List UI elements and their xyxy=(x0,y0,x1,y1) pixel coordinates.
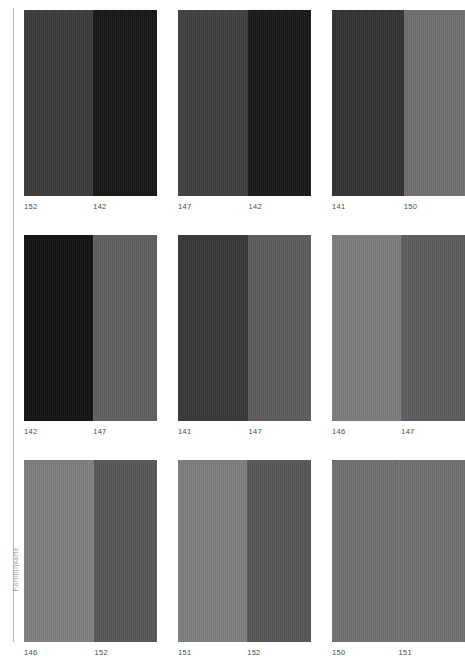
swatch-label-right: 150 xyxy=(404,200,465,218)
swatch-body xyxy=(332,460,465,642)
swatch-label-right: 152 xyxy=(247,646,311,659)
swatch-half-right xyxy=(248,235,311,421)
swatch-label-left: 150 xyxy=(332,646,399,659)
swatch-half-left xyxy=(332,460,399,642)
swatch-label-left: 141 xyxy=(332,200,404,218)
swatch-plate: 152 142 147 142 141 150 xyxy=(24,10,460,659)
swatch-label-right: 147 xyxy=(401,425,465,443)
swatch-label-left: 146 xyxy=(24,646,94,659)
swatch-labels: 152 142 xyxy=(24,196,157,218)
swatch-row: 152 142 147 142 141 150 xyxy=(24,10,460,218)
swatch-body xyxy=(332,235,465,421)
swatch-card[interactable]: 141 150 xyxy=(332,10,465,218)
swatch-label-left: 142 xyxy=(24,425,93,443)
swatch-card[interactable]: 141 147 xyxy=(178,235,311,443)
swatch-card[interactable]: 150 151 xyxy=(332,460,465,659)
swatch-label-right: 152 xyxy=(94,646,157,659)
swatch-label-left: 146 xyxy=(332,425,401,443)
swatch-body xyxy=(24,460,157,642)
swatch-half-left xyxy=(24,235,93,421)
swatch-half-left xyxy=(178,460,247,642)
swatch-card[interactable]: 152 142 xyxy=(24,10,157,218)
swatch-labels: 146 147 xyxy=(332,421,465,443)
margin-note-text: Farbtonkarte xyxy=(12,506,19,592)
swatch-half-right xyxy=(404,10,465,196)
swatch-labels: 151 152 xyxy=(178,642,311,659)
swatch-label-left: 152 xyxy=(24,200,93,218)
swatch-half-right xyxy=(248,10,311,196)
swatch-body xyxy=(24,10,157,196)
swatch-label-right: 151 xyxy=(399,646,465,659)
swatch-label-right: 147 xyxy=(93,425,157,443)
swatch-half-right xyxy=(94,460,157,642)
swatch-card[interactable]: 146 152 xyxy=(24,460,157,659)
swatch-half-right xyxy=(401,235,465,421)
swatch-labels: 146 152 xyxy=(24,642,157,659)
swatch-body xyxy=(24,235,157,421)
swatch-labels: 147 142 xyxy=(178,196,311,218)
swatch-label-left: 147 xyxy=(178,200,248,218)
swatch-half-left xyxy=(178,10,248,196)
swatch-labels: 150 151 xyxy=(332,642,465,659)
swatch-body xyxy=(178,10,311,196)
swatch-labels: 141 147 xyxy=(178,421,311,443)
swatch-half-right xyxy=(93,10,157,196)
swatch-card[interactable]: 151 152 xyxy=(178,460,311,659)
swatch-half-left xyxy=(178,235,248,421)
swatch-row: 142 147 141 147 146 147 xyxy=(24,235,460,443)
swatch-label-right: 142 xyxy=(248,200,311,218)
swatch-half-left xyxy=(24,10,93,196)
swatch-body xyxy=(332,10,465,196)
swatch-half-right xyxy=(93,235,157,421)
swatch-half-right xyxy=(399,460,465,642)
swatch-label-right: 147 xyxy=(248,425,311,443)
swatch-half-left xyxy=(24,460,94,642)
swatch-card[interactable]: 147 142 xyxy=(178,10,311,218)
swatch-row: 146 152 151 152 150 151 xyxy=(24,460,460,659)
swatch-label-left: 151 xyxy=(178,646,247,659)
swatch-body xyxy=(178,460,311,642)
swatch-body xyxy=(178,235,311,421)
swatch-card[interactable]: 146 147 xyxy=(332,235,465,443)
swatch-label-left: 141 xyxy=(178,425,248,443)
swatch-labels: 142 147 xyxy=(24,421,157,443)
swatch-half-left xyxy=(332,235,401,421)
swatch-card[interactable]: 142 147 xyxy=(24,235,157,443)
swatch-half-left xyxy=(332,10,404,196)
swatch-half-right xyxy=(247,460,311,642)
swatch-label-right: 142 xyxy=(93,200,157,218)
swatch-labels: 141 150 xyxy=(332,196,465,218)
